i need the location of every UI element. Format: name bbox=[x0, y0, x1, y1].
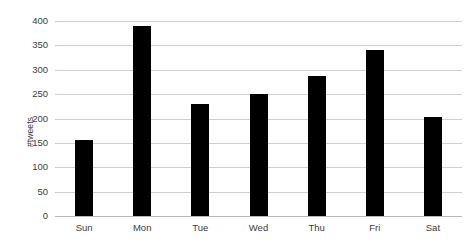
bar-sat bbox=[424, 117, 442, 216]
y-tick-label-250: 250 bbox=[2, 88, 48, 100]
gridline-0: 0 bbox=[55, 216, 462, 217]
bar-tue bbox=[191, 104, 209, 216]
bar-chart-figure: #tweets 050100150200250300350400 SunMonT… bbox=[0, 0, 475, 252]
y-tick-label-300: 300 bbox=[2, 64, 48, 76]
bar-mon bbox=[133, 26, 151, 216]
y-tick-label-50: 50 bbox=[2, 186, 48, 198]
x-tick-label-sun: Sun bbox=[54, 221, 114, 235]
x-tick-label-sat: Sat bbox=[403, 221, 463, 235]
x-tick-label-mon: Mon bbox=[112, 221, 172, 235]
figure-caption bbox=[8, 243, 308, 252]
plot-area: 050100150200250300350400 bbox=[55, 21, 462, 216]
x-tick-label-thu: Thu bbox=[287, 221, 347, 235]
bar-series bbox=[55, 21, 462, 216]
x-tick-label-wed: Wed bbox=[229, 221, 289, 235]
bar-fri bbox=[366, 50, 384, 216]
y-tick-label-200: 200 bbox=[2, 113, 48, 125]
y-tick-label-150: 150 bbox=[2, 137, 48, 149]
x-tick-label-tue: Tue bbox=[170, 221, 230, 235]
y-tick-label-400: 400 bbox=[2, 15, 48, 27]
y-tick-label-100: 100 bbox=[2, 161, 48, 173]
y-tick-label-350: 350 bbox=[2, 39, 48, 51]
bar-sun bbox=[75, 140, 93, 216]
x-axis-tick-labels: SunMonTueWedThuFriSat bbox=[55, 221, 462, 237]
y-tick-label-0: 0 bbox=[2, 210, 48, 222]
bar-wed bbox=[250, 94, 268, 216]
bar-thu bbox=[308, 76, 326, 216]
x-tick-label-fri: Fri bbox=[345, 221, 405, 235]
